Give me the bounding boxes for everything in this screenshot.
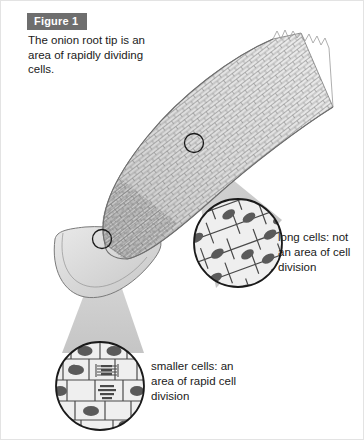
magnified-view-smaller-cells (53, 342, 144, 430)
callout-label-long-cells: long cells: not an area of cell division (278, 230, 364, 275)
figure-number-badge: Figure 1 (27, 13, 87, 30)
figure-container: Figure 1 The onion root tip is an area o… (0, 0, 364, 440)
callout-label-smaller-cells: smaller cells: an area of rapid cell div… (151, 359, 255, 404)
figure-caption: The onion root tip is an area of rapidly… (28, 33, 148, 77)
